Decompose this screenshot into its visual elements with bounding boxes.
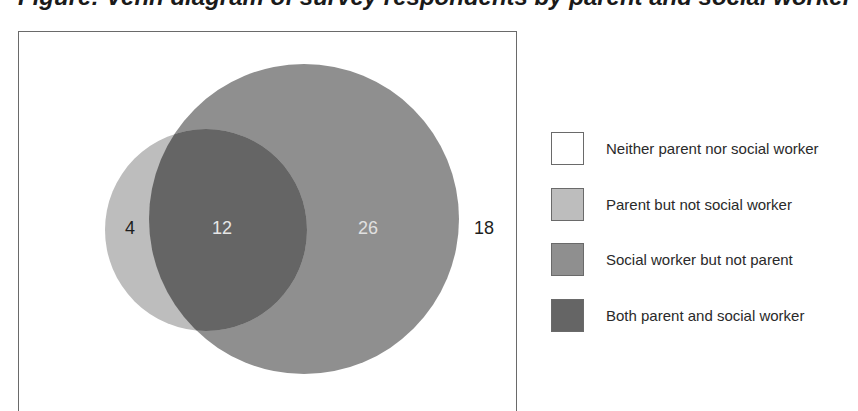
legend-item-both: Both parent and social worker (551, 298, 804, 332)
legend-label: Neither parent nor social worker (606, 140, 819, 157)
legend-swatch-both (551, 299, 584, 332)
legend-label: Social worker but not parent (606, 251, 793, 268)
legend-item-social-only: Social worker but not parent (551, 242, 793, 276)
legend-swatch-neither (551, 132, 584, 165)
legend-item-neither: Neither parent nor social worker (551, 131, 819, 165)
venn-label-social-only: 26 (358, 218, 378, 239)
venn-label-neither: 18 (474, 218, 494, 239)
legend-label: Both parent and social worker (606, 307, 804, 324)
legend-label: Parent but not social worker (606, 196, 792, 213)
venn-label-both: 12 (212, 218, 232, 239)
venn-label-parent-only: 4 (125, 218, 135, 239)
legend-swatch-parent-only (551, 188, 584, 221)
legend-swatch-social-only (551, 243, 584, 276)
legend-item-parent-only: Parent but not social worker (551, 187, 792, 221)
